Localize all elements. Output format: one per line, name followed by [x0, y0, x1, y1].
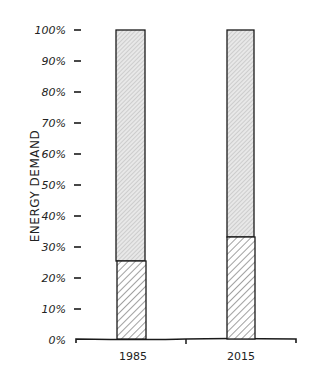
bar-2015-upper: [227, 30, 254, 237]
y-tick-label: 90%: [42, 55, 66, 68]
x-label-2015: 2015: [227, 350, 255, 363]
y-axis-label: ENERGY DEMAND: [28, 130, 42, 242]
y-axis-ticks: 0%10%20%30%40%50%60%70%80%90%100%: [35, 24, 81, 347]
y-tick-label: 0%: [49, 334, 66, 347]
y-tick-label: 80%: [42, 86, 66, 99]
stacked-bar-chart: ENERGY DEMAND 0%10%20%30%40%50%60%70%80%…: [0, 0, 315, 383]
bar-2015: [227, 30, 255, 339]
y-tick-label: 60%: [42, 148, 66, 161]
x-label-1985: 1985: [119, 350, 147, 363]
y-tick-label: 100%: [35, 24, 66, 37]
y-tick-label: 10%: [42, 303, 66, 316]
y-tick-label: 40%: [42, 210, 66, 223]
y-tick-label: 50%: [42, 179, 66, 192]
y-tick-label: 70%: [42, 117, 66, 130]
bar-2015-lower: [227, 237, 255, 339]
bar-1985: [116, 30, 146, 339]
bar-1985-upper: [116, 30, 145, 261]
bar-1985-lower: [117, 261, 146, 339]
y-tick-label: 30%: [42, 241, 66, 254]
y-tick-label: 20%: [42, 272, 66, 285]
